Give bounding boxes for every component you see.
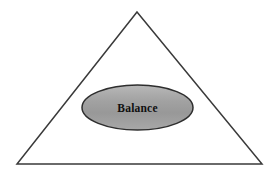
diagram-canvas: Balance [0,0,278,172]
balance-ellipse [82,85,193,130]
diagram-svg [0,0,278,172]
